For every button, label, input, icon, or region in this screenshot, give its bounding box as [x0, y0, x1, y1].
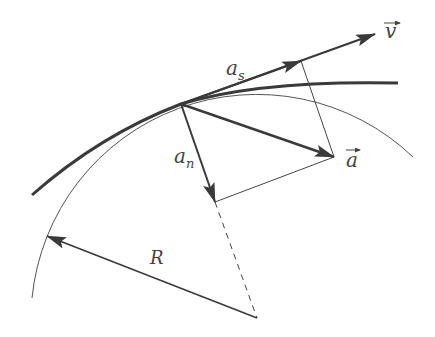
- svg-text:an: an: [174, 144, 194, 171]
- kinematics-diagram: v as a an R: [0, 0, 435, 337]
- tangential-label: as: [226, 56, 245, 83]
- normal-acceleration-vector: [181, 104, 215, 202]
- velocity-label: v: [384, 19, 400, 43]
- normal-label: an: [174, 144, 194, 171]
- svg-text:as: as: [226, 56, 245, 83]
- trajectory-curve: [32, 83, 398, 195]
- construction-line-an-to-a: [215, 157, 334, 202]
- acceleration-label: a: [346, 148, 360, 172]
- osculating-circle-arc: [32, 94, 413, 298]
- acceleration-vector: [181, 104, 334, 157]
- svg-text:R: R: [149, 247, 164, 268]
- dashed-radius-line: [215, 202, 257, 318]
- construction-line-as-to-a: [301, 61, 334, 157]
- radius-label: R: [149, 247, 164, 268]
- svg-text:a: a: [346, 148, 358, 172]
